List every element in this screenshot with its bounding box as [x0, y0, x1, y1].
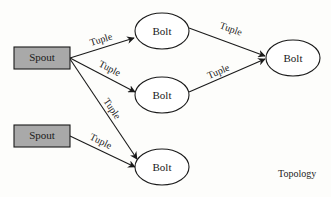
- spout-node: Spout: [14, 125, 70, 147]
- edge-label: Tuple: [101, 96, 123, 122]
- edge-label: Tuple: [97, 58, 123, 78]
- bolt-label: Bolt: [284, 52, 303, 64]
- edge-label: Tuple: [218, 20, 244, 38]
- spout-node: Spout: [14, 47, 70, 69]
- topology-caption: Topology: [278, 168, 316, 179]
- bolt-label: Bolt: [153, 25, 172, 37]
- bolt-node: Bolt: [266, 40, 320, 76]
- bolt-node: Bolt: [135, 149, 189, 185]
- topology-diagram: Tuple Tuple Tuple Tuple Tuple Tuple Spou…: [0, 0, 331, 197]
- edge-label: Tuple: [205, 62, 231, 81]
- bolt-label: Bolt: [153, 161, 172, 173]
- bolt-label: Bolt: [153, 89, 172, 101]
- edge-label: Tuple: [88, 131, 114, 151]
- spout-label: Spout: [29, 51, 55, 63]
- spout-label: Spout: [29, 129, 55, 141]
- bolt-node: Bolt: [135, 77, 189, 113]
- bolt-node: Bolt: [135, 13, 189, 49]
